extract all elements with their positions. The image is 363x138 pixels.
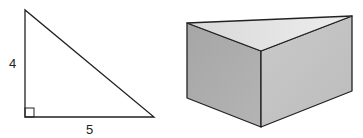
triangle-outline — [25, 10, 154, 117]
diagram-canvas: 4 5 — [0, 0, 363, 138]
right-angle-marker — [25, 108, 34, 117]
triangular-prism — [187, 16, 352, 127]
right-triangle: 4 5 — [9, 10, 154, 137]
leg-horizontal-label: 5 — [86, 122, 93, 137]
leg-vertical-label: 4 — [9, 56, 16, 71]
